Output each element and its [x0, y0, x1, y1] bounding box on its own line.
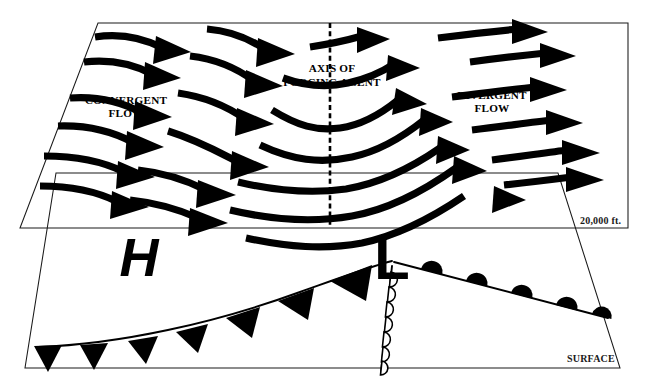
- low-pressure-symbol: L: [374, 226, 409, 291]
- weather-diagram: CONVERGENT FLOW AXIS OF FORCING AGENT DI…: [0, 0, 649, 388]
- axis-label-line2: FORCING AGENT: [283, 76, 381, 88]
- trough-barb: [384, 317, 392, 332]
- convergent-flow-label-line2: FLOW: [109, 107, 145, 119]
- axis-label-line1: AXIS OF: [309, 62, 355, 74]
- trough-barb: [381, 361, 388, 375]
- surface-label: SURFACE: [567, 353, 615, 364]
- altitude-label: 20,000 ft.: [580, 215, 621, 226]
- divergent-flow-label-line1: DIVERGENT: [457, 89, 527, 101]
- trough-barb: [381, 347, 389, 362]
- divergent-flow-label-line2: FLOW: [475, 102, 511, 114]
- convergent-flow-label-line1: CONVERGENT: [85, 94, 168, 106]
- high-pressure-symbol: H: [120, 227, 160, 287]
- trough-barb: [382, 332, 390, 347]
- trough-barb: [385, 302, 393, 317]
